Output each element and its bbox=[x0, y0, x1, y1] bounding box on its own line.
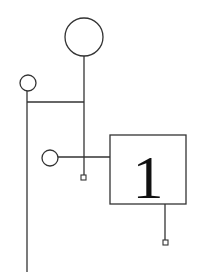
terminal-square-2 bbox=[163, 240, 168, 245]
box-label: 1 bbox=[133, 143, 164, 211]
small-circle-middle-node bbox=[42, 150, 58, 166]
diagram-canvas: 1 bbox=[0, 0, 199, 272]
terminal-square-1 bbox=[81, 175, 86, 180]
large-circle-node bbox=[65, 18, 103, 56]
small-circle-top-node bbox=[20, 75, 36, 91]
